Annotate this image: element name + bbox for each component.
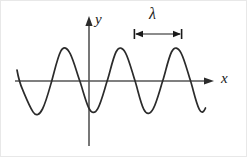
y-axis-label: y (95, 12, 102, 27)
wavelength-right-arrowhead (173, 31, 181, 37)
wave-figure: y x λ (0, 0, 247, 157)
wavelength-left-arrowhead (135, 31, 143, 37)
x-axis-arrowhead (204, 77, 214, 84)
wavelength-label: λ (149, 6, 156, 22)
wave-diagram-canvas (1, 1, 247, 157)
x-axis-label: x (221, 71, 228, 86)
y-axis-arrowhead (85, 16, 92, 26)
